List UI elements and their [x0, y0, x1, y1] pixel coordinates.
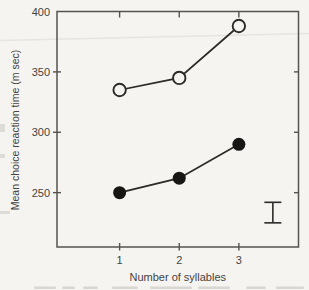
data-point-open-circles-1	[113, 84, 125, 96]
data-point-filled-circles-1	[113, 186, 126, 199]
y-tick-label: 400	[32, 6, 50, 18]
data-point-filled-circles-3	[232, 138, 245, 151]
x-axis-title: Number of syllables	[129, 271, 226, 283]
caption-remnant	[34, 287, 56, 290]
scan-edge-smudge	[0, 211, 10, 214]
caption-remnant	[276, 287, 304, 290]
y-tick-label: 350	[32, 66, 50, 78]
x-tick-label: 1	[117, 254, 123, 266]
caption-remnant	[198, 287, 230, 290]
scanned-figure-page: 250300350400123Number of syllablesMean c…	[0, 0, 309, 290]
scan-edge-smudge	[0, 154, 5, 158]
data-point-open-circles-2	[173, 72, 185, 84]
y-tick-label: 250	[32, 187, 50, 199]
x-tick-label: 3	[236, 254, 242, 266]
caption-remnant	[83, 287, 98, 290]
caption-remnant	[246, 287, 266, 290]
data-point-filled-circles-2	[173, 172, 186, 185]
scan-edge-smudge	[0, 124, 5, 132]
data-point-open-circles-3	[233, 20, 245, 32]
y-tick-label: 300	[32, 126, 50, 138]
x-tick-label: 2	[176, 254, 182, 266]
caption-remnant	[150, 287, 192, 290]
caption-remnant	[62, 287, 75, 290]
y-axis-title: Mean choice reaction time (m sec)	[9, 50, 21, 210]
caption-remnant	[112, 287, 138, 290]
reaction-time-chart: 250300350400123Number of syllablesMean c…	[0, 0, 309, 290]
